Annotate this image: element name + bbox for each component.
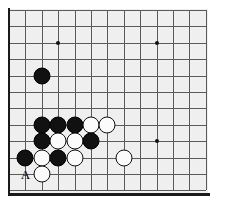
black-stone[interactable] [50,149,67,166]
white-stone[interactable] [66,133,83,150]
grid-line-vertical [206,10,207,190]
board-left-edge [8,8,10,196]
white-stone[interactable] [33,166,50,183]
board-bottom-edge [8,193,210,196]
star-point [56,41,60,45]
black-stone[interactable] [33,116,50,133]
white-stone[interactable] [115,149,132,166]
grid-line-vertical [91,10,92,190]
white-stone[interactable] [33,149,50,166]
black-stone[interactable] [33,133,50,150]
grid-line-horizontal [9,43,206,44]
go-board-screenshot: A [0,0,225,206]
grid-line-horizontal [9,59,206,60]
black-stone[interactable] [17,149,34,166]
grid-line-horizontal [9,10,206,11]
grid-line-horizontal [9,108,206,109]
black-stone[interactable] [33,67,50,84]
grid-line-horizontal [9,190,206,191]
grid-line-vertical [140,10,141,190]
star-point [155,139,159,143]
black-stone[interactable] [66,116,83,133]
grid-line-vertical [189,10,190,190]
white-stone[interactable] [66,149,83,166]
white-stone[interactable] [50,133,67,150]
grid-line-vertical [107,10,108,190]
grid-line-horizontal [9,92,206,93]
white-stone[interactable] [83,116,100,133]
white-stone[interactable] [99,116,116,133]
grid-line-horizontal [9,26,206,27]
grid-line-vertical [173,10,174,190]
black-stone[interactable] [50,116,67,133]
star-point [155,41,159,45]
grid-line-vertical [157,10,158,190]
board-point-label: A [21,168,30,181]
black-stone[interactable] [83,133,100,150]
